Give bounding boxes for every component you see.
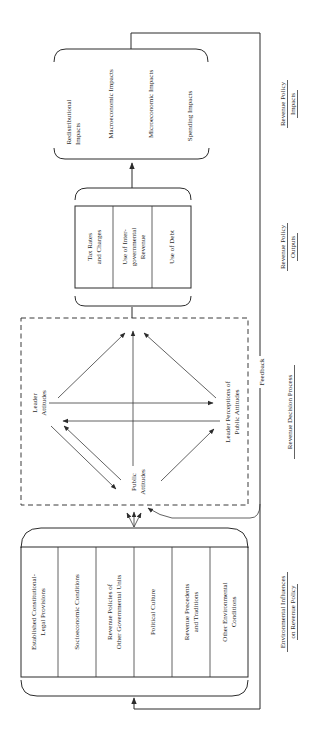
revenue-policy-diagram: Established Constitutional- Legal Provis… [0,0,319,744]
env-item-constitutional: Established Constitutional- Legal Provis… [30,573,47,650]
svg-text:Political Culture: Political Culture [149,589,157,635]
outputs-bracket-top [75,188,191,200]
svg-text:Attitudes: Attitudes [40,390,48,416]
env-item-precedents: Revenue Precedents and Traditions [183,583,200,640]
environmental-influences-group: Established Constitutional- Legal Provis… [21,528,298,696]
decision-process-heading: Revenue Decision Process [286,365,295,459]
output-tax-rates: Tax Rates and Charges [86,229,103,264]
svg-text:Use of Debt: Use of Debt [168,230,176,264]
env-item-political-culture: Political Culture [149,589,157,635]
svg-text:Spending Impacts: Spending Impacts [186,91,194,142]
svg-text:Leader Perceptions of: Leader Perceptions of [224,381,232,443]
outputs-bracket-bottom [75,296,191,306]
svg-text:on Revenue Policy: on Revenue Policy [289,585,297,638]
impact-redistributional: Redistributional Impacts [65,99,82,145]
svg-text:Revenue Precedents: Revenue Precedents [183,583,191,640]
svg-text:Feedback: Feedback [258,358,266,385]
svg-text:Microeconomic Impacts: Microeconomic Impacts [147,70,155,139]
svg-text:Revenue Decision Process: Revenue Decision Process [286,375,294,450]
arrow-perceptions-to-outputs [144,333,216,398]
svg-text:Impacts: Impacts [289,93,297,115]
arrow-public-to-leader [64,426,121,480]
env-item-socioeconomic: Socioeconomic Conditions [73,574,81,650]
env-bracket-top [21,528,248,548]
env-heading: Environmental Influences on Revenue Poli… [279,572,298,652]
env-item-other-governments: Revenue Policies of Other Governmental U… [106,574,123,649]
arrow-leader-to-public [51,426,116,489]
outputs-heading: Revenue Policy Outputs [279,223,298,271]
svg-text:Public: Public [130,473,138,491]
svg-text:and Charges: and Charges [95,229,103,264]
svg-text:Legal Provisions: Legal Provisions [39,588,47,636]
output-intergovernmental: Use of Inter- governmental Revenue [121,228,147,267]
env-bracket-bottom [21,680,248,696]
output-use-of-debt: Use of Debt [168,230,176,264]
svg-text:governmental: governmental [130,228,138,267]
svg-text:Leader: Leader [31,393,39,413]
feedback-label: Feedback [258,356,266,388]
env-to-process-arrows [127,512,141,527]
svg-text:and Traditions: and Traditions [192,592,200,633]
svg-text:Other Environmental: Other Environmental [221,582,229,641]
arrow-public-to-perceptions [161,429,214,481]
svg-text:Outputs: Outputs [289,236,297,258]
svg-text:Impacts: Impacts [74,123,82,145]
svg-text:Revenue Policy: Revenue Policy [279,81,287,126]
svg-text:Established Constitutional-: Established Constitutional- [30,573,38,650]
outputs-group: Tax Rates and Charges Use of Inter- gove… [75,188,298,306]
impact-microeconomic: Microeconomic Impacts [147,70,155,139]
node-leader-attitudes: Leader Attitudes [31,390,48,416]
svg-text:Other Governmental Units: Other Governmental Units [115,574,123,649]
svg-text:Public Attitudes: Public Attitudes [233,389,241,434]
impact-spending: Spending Impacts [186,91,194,142]
impacts-group: Redistributional Impacts Macroeconomic I… [54,49,298,159]
env-item-other-conditions: Other Environmental Conditions [221,582,238,641]
svg-text:Redistributional: Redistributional [65,99,73,144]
svg-text:Socioeconomic Conditions: Socioeconomic Conditions [73,574,81,650]
env-factors-box [21,547,248,677]
decision-process-group: Leader Attitudes Public Attitudes Leader… [21,318,295,505]
svg-text:Use of Inter-: Use of Inter- [121,229,129,265]
node-leader-perceptions: Leader Perceptions of Public Attitudes [224,381,241,443]
impacts-heading: Revenue Policy Impacts [279,80,298,128]
node-public-attitudes: Public Attitudes [130,469,147,495]
feedback-to-public-arrow [148,504,260,518]
impact-macroeconomic: Macroeconomic Impacts [107,69,115,139]
svg-text:Revenue Policy: Revenue Policy [279,224,287,269]
svg-text:Revenue: Revenue [139,235,147,260]
svg-text:Revenue Policies of: Revenue Policies of [106,583,114,640]
arrow-leader-to-outputs [58,333,125,398]
svg-text:Tax Rates: Tax Rates [86,233,94,261]
svg-text:Conditions: Conditions [230,596,238,627]
svg-text:Attitudes: Attitudes [139,469,147,495]
svg-text:Environmental Influences: Environmental Influences [279,575,287,648]
svg-text:Macroeconomic Impacts: Macroeconomic Impacts [107,69,115,139]
